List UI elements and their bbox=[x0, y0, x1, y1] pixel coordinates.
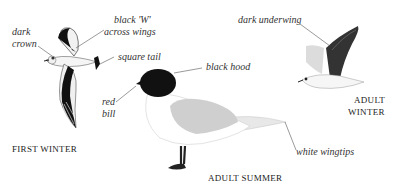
label-black-w-line1: black 'W' bbox=[114, 14, 151, 25]
label-black-hood: black hood bbox=[206, 61, 250, 72]
illustration-canvas bbox=[0, 0, 402, 187]
label-dark-underwing: dark underwing bbox=[238, 14, 302, 25]
label-red-bill-line1: red bbox=[102, 96, 115, 107]
label-black-w-line2: across wings bbox=[104, 26, 156, 37]
gull-identification-plate: dark crown black 'W' across wings square… bbox=[0, 0, 402, 187]
caption-adult-winter-line1: ADULT bbox=[354, 95, 385, 106]
label-dark-crown-line2: crown bbox=[12, 38, 37, 49]
caption-adult-winter-line2: WINTER bbox=[348, 107, 385, 118]
label-dark-crown-line1: dark bbox=[12, 26, 30, 37]
first-winter-gull-illustration bbox=[44, 28, 100, 128]
label-square-tail: square tail bbox=[118, 51, 161, 62]
adult-winter-gull-illustration bbox=[298, 26, 364, 88]
caption-adult-summer: ADULT SUMMER bbox=[208, 173, 282, 184]
label-white-wingtips: white wingtips bbox=[296, 146, 354, 157]
caption-first-winter: FIRST WINTER bbox=[12, 144, 77, 155]
label-red-bill-line2: bill bbox=[102, 108, 115, 119]
adult-summer-gull-illustration bbox=[136, 69, 286, 170]
